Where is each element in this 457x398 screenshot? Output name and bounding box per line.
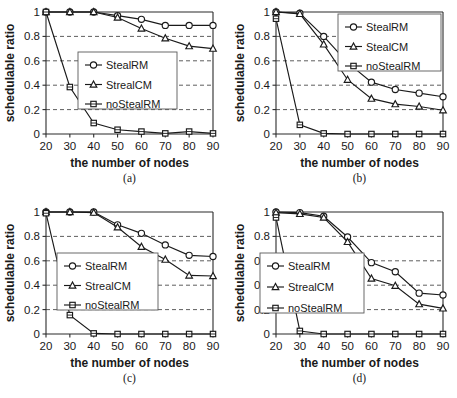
y-tick-label: 0 (34, 128, 40, 140)
x-tick-label: 40 (87, 340, 100, 352)
legend-label: noStealRM (288, 302, 342, 314)
legend-label: StealRM (366, 21, 408, 33)
x-tick-label: 50 (341, 140, 354, 152)
legend-label: noStealRM (106, 98, 160, 110)
figure-grid: 00.20.40.60.812030405060708090StealRMStr… (0, 0, 457, 398)
panel-caption: (d) (353, 372, 367, 385)
legend-label: StealRM (288, 260, 330, 272)
x-tick-label: 50 (341, 340, 354, 352)
x-tick-label: 80 (183, 140, 196, 152)
x-tick-label: 40 (317, 140, 330, 152)
x-tick-label: 20 (270, 340, 283, 352)
x-tick-label: 80 (413, 140, 426, 152)
legend: StealRMStrealCMnoStealRM (78, 52, 177, 110)
chart-panel-a: 00.20.40.60.812030405060708090StealRMStr… (0, 0, 228, 196)
x-tick-label: 50 (111, 140, 124, 152)
x-tick-label: 50 (111, 340, 124, 352)
y-tick-label: 1 (34, 6, 40, 18)
legend-label: noStealRM (366, 60, 420, 72)
y-axis-ticks: 00.20.40.60.81 (24, 206, 46, 340)
x-tick-label: 30 (293, 140, 306, 152)
legend-label: noStealRM (85, 299, 139, 311)
x-tick-label: 90 (207, 140, 220, 152)
x-tick-label: 60 (365, 340, 378, 352)
x-tick-label: 40 (317, 340, 330, 352)
y-tick-label: 0.2 (24, 304, 40, 316)
y-tick-label: 0.6 (24, 55, 40, 67)
legend: StealRMStrealCMnoStealRM (260, 253, 364, 314)
y-axis-ticks: 00.20.40.60.81 (254, 6, 276, 140)
y-tick-label: 0 (264, 328, 270, 340)
x-axis-title: the number of nodes (300, 156, 419, 170)
legend-label: StrealCM (288, 281, 334, 293)
x-tick-label: 40 (87, 140, 100, 152)
y-tick-label: 0.6 (254, 55, 270, 67)
x-tick-label: 30 (63, 340, 76, 352)
y-tick-label: 0.8 (254, 230, 270, 242)
panel-caption: (a) (123, 172, 136, 185)
x-tick-label: 70 (389, 340, 402, 352)
x-axis-title: the number of nodes (300, 356, 419, 370)
x-tick-label: 30 (293, 340, 306, 352)
y-axis-title: schedulable ratio (3, 224, 17, 323)
x-tick-label: 60 (365, 140, 378, 152)
legend-label: StealRM (106, 59, 148, 71)
x-tick-label: 20 (40, 340, 53, 352)
x-tick-label: 60 (135, 340, 148, 352)
x-tick-label: 20 (40, 140, 53, 152)
x-axis-ticks: 2030405060708090 (40, 334, 220, 352)
chart-panel-c: 00.20.40.60.812030405060708090StealRMStr… (0, 196, 228, 398)
y-tick-label: 0.2 (24, 104, 40, 116)
y-tick-label: 0.4 (24, 79, 41, 91)
series-StrealCM (43, 9, 217, 52)
x-tick-label: 90 (437, 340, 450, 352)
y-tick-label: 0.4 (254, 79, 271, 91)
panel-caption: (c) (123, 372, 136, 385)
y-axis-ticks: 00.20.40.60.81 (24, 6, 46, 140)
y-tick-label: 1 (264, 6, 270, 18)
x-axis-title: the number of nodes (70, 156, 189, 170)
x-axis-ticks: 2030405060708090 (270, 134, 450, 152)
x-axis-ticks: 2030405060708090 (270, 334, 450, 352)
y-axis-title: schedulable ratio (3, 24, 17, 123)
x-tick-label: 30 (63, 140, 76, 152)
y-tick-label: 0.8 (24, 30, 40, 42)
y-tick-label: 0.8 (24, 230, 40, 242)
x-tick-label: 90 (437, 140, 450, 152)
chart-panel-d: 00.20.40.60.812030405060708090StealRMStr… (228, 196, 457, 398)
x-axis-ticks: 2030405060708090 (40, 134, 220, 152)
x-tick-label: 80 (183, 340, 196, 352)
x-tick-label: 60 (135, 140, 148, 152)
panel-caption: (b) (353, 172, 367, 185)
series-StealRM (43, 209, 216, 260)
x-axis-title: the number of nodes (70, 356, 189, 370)
y-tick-label: 0 (264, 128, 270, 140)
y-tick-label: 1 (264, 206, 270, 218)
legend-label: StealRM (85, 260, 127, 272)
legend-label: StrealCM (106, 79, 152, 91)
x-tick-label: 20 (270, 140, 283, 152)
x-tick-label: 70 (389, 140, 402, 152)
legend-label: StrealCM (85, 280, 131, 292)
y-tick-label: 0.2 (254, 104, 270, 116)
y-tick-label: 0.6 (24, 255, 40, 267)
x-tick-label: 70 (159, 140, 172, 152)
legend: StealRMStealCMnoStealRM (338, 14, 441, 72)
chart-panel-b: 00.20.40.60.812030405060708090StealRMSte… (228, 0, 457, 196)
x-tick-label: 70 (159, 340, 172, 352)
legend-label: StealCM (366, 41, 408, 53)
y-axis-title: schedulable ratio (233, 24, 247, 123)
y-tick-label: 0.4 (24, 279, 41, 291)
legend: StealRMStrealCMnoStealRM (57, 253, 158, 311)
x-tick-label: 90 (207, 340, 220, 352)
y-tick-label: 0 (34, 328, 40, 340)
y-axis-title: schedulable ratio (233, 224, 247, 323)
x-tick-label: 80 (413, 340, 426, 352)
y-tick-label: 0.8 (254, 30, 270, 42)
y-tick-label: 1 (34, 206, 40, 218)
